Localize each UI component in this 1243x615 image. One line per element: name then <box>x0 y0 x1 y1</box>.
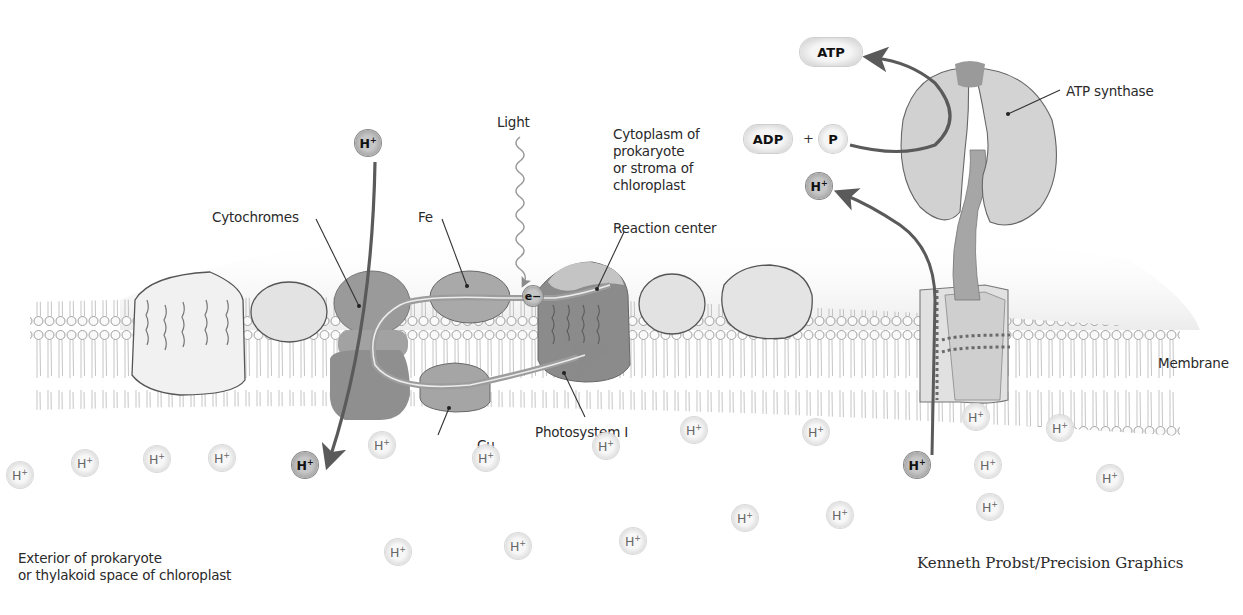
phosphate-label: P <box>828 132 838 147</box>
exterior-label: Exterior of prokaryote or thylakoid spac… <box>18 550 231 584</box>
membrane-protein-oval-1 <box>251 282 327 342</box>
proton-ion: H+ <box>963 404 989 430</box>
proton-ion: H+ <box>977 494 1003 520</box>
proton-ion: H+ <box>803 419 829 445</box>
atp-synthase-label: ATP synthase <box>1066 83 1154 100</box>
atp-label: ATP <box>817 45 844 60</box>
proton-ion: H+ <box>385 539 411 565</box>
adp-molecule: ADP <box>744 125 792 153</box>
proton-ion: H+ <box>7 462 33 488</box>
adp-label: ADP <box>753 132 783 147</box>
proton-ion: H+ <box>681 417 707 443</box>
light-label: Light <box>497 114 530 131</box>
cytochromes-label: Cytochromes <box>212 209 299 226</box>
proton-ion: H+ <box>209 445 235 471</box>
proton-ion: H+ <box>620 528 646 554</box>
proton-ion-highlighted: H+ <box>292 452 318 478</box>
proton-ion: H+ <box>369 432 395 458</box>
proton-ion-highlighted: H+ <box>355 130 381 156</box>
membrane-protein-left <box>132 272 245 395</box>
proton-ion: H+ <box>144 446 170 472</box>
proton-ion-highlighted: H+ <box>806 173 832 199</box>
proton-ion: H+ <box>732 505 758 531</box>
proton-ion: H+ <box>1047 415 1073 441</box>
fe-label: Fe <box>418 209 433 226</box>
proton-ion: H+ <box>827 502 853 528</box>
proton-ion: H+ <box>975 452 1001 478</box>
membrane-protein-oval-2 <box>639 274 705 334</box>
electron-marker: e− <box>523 286 543 306</box>
reaction-center-label: Reaction center <box>613 220 716 237</box>
proton-ion: H+ <box>473 445 499 471</box>
plus-sign: + <box>803 131 814 146</box>
credit-label: Kenneth Probst/Precision Graphics <box>917 554 1184 572</box>
proton-ion-highlighted: H+ <box>904 452 930 478</box>
membrane-label: Membrane <box>1158 355 1229 372</box>
electron-label: e− <box>525 290 542 303</box>
proton-ion: H+ <box>72 450 98 476</box>
proton-ion: H+ <box>593 433 619 459</box>
proton-ion: H+ <box>505 533 531 559</box>
electron-transport-diagram <box>0 0 1243 615</box>
phosphate-molecule: P <box>819 125 847 153</box>
membrane-protein-oval-3 <box>722 265 813 339</box>
proton-ion: H+ <box>1097 465 1123 491</box>
cytoplasm-label: Cytoplasm of prokaryote or stroma of chl… <box>613 126 700 194</box>
atp-molecule: ATP <box>800 38 862 66</box>
